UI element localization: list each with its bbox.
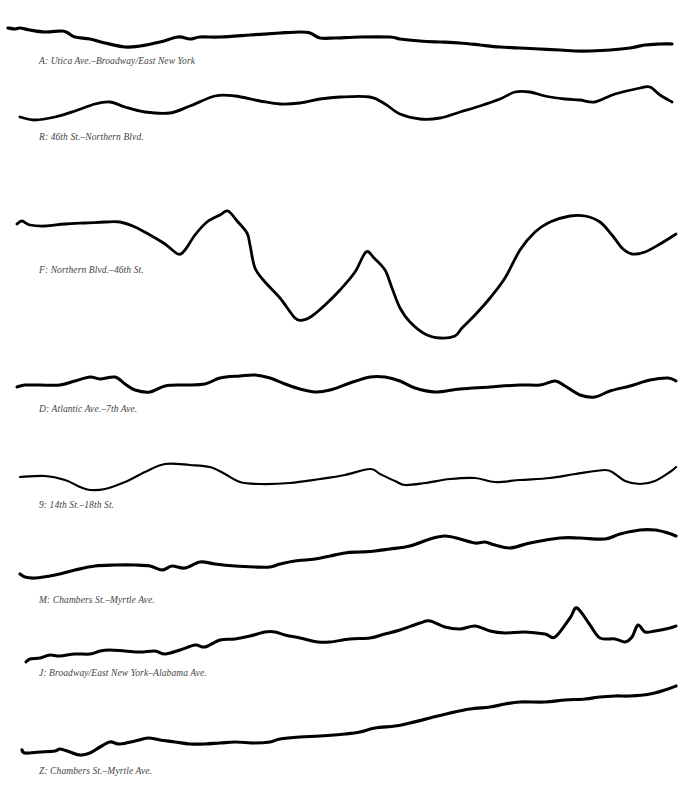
profile-line xyxy=(26,608,676,662)
series-label-9: 9: 14th St.–18th St. xyxy=(39,500,114,510)
series-label-r: R: 46th St.–Northern Blvd. xyxy=(39,132,144,142)
series-label-z: Z: Chambers St.–Myrtle Ave. xyxy=(39,766,152,776)
series-label-j: J: Broadway/East New York–Alabama Ave. xyxy=(39,668,207,678)
series-label-m: M: Chambers St.–Myrtle Ave. xyxy=(39,595,155,605)
series-label-f: F: Northern Blvd.–46th St. xyxy=(39,265,144,275)
series-label-a: A: Utica Ave.–Broadway/East New York xyxy=(39,56,195,66)
profile-line xyxy=(22,686,676,755)
profile-line xyxy=(20,464,676,491)
profile-line xyxy=(20,530,676,579)
profile-line xyxy=(17,375,676,397)
profile-line xyxy=(8,28,672,51)
series-label-d: D: Atlantic Ave.–7th Ave. xyxy=(39,404,137,414)
profile-line xyxy=(20,86,672,120)
